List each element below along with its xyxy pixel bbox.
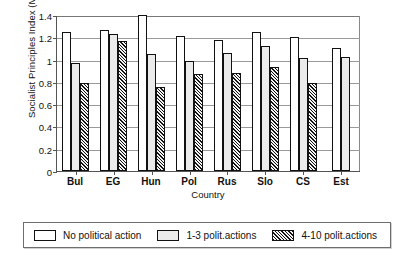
bar [147, 54, 156, 171]
legend-entry: 1-3 polit.actions [157, 230, 256, 241]
bar [223, 53, 232, 171]
legend-label: 4-10 polit.actions [301, 230, 377, 241]
x-axis-tick-label: Est [322, 176, 360, 187]
bar [80, 83, 89, 171]
bar [261, 46, 270, 171]
y-axis-tick-mark [53, 172, 57, 173]
bar [332, 48, 341, 171]
x-axis-tick-mark [303, 171, 304, 175]
y-axis-tick-label: 1.2 [39, 33, 52, 44]
bar-group [284, 16, 322, 171]
bar [156, 87, 165, 171]
legend-swatch [272, 230, 294, 241]
bar [138, 15, 147, 171]
y-axis-tick-label: 0.4 [39, 122, 52, 133]
bar [71, 63, 80, 171]
bar [290, 37, 299, 171]
x-axis-tick-label: Rus [208, 176, 246, 187]
bar [176, 36, 185, 171]
y-axis-tick-label: 1.4 [39, 11, 52, 22]
bar-group [95, 16, 133, 171]
x-axis-tick-labels: BulEGHunPolRusSloCSEst [56, 176, 360, 187]
x-axis-tick-label: CS [284, 176, 322, 187]
plot-area: 00.20.40.60.811.21.4 [56, 16, 360, 172]
y-axis-tick-label: 0.2 [39, 144, 52, 155]
y-axis-tick-label: 0.8 [39, 77, 52, 88]
x-axis-tick-mark [152, 171, 153, 175]
legend-swatch [157, 230, 179, 241]
x-axis-tick-mark [227, 171, 228, 175]
bar [232, 73, 241, 171]
bar [308, 83, 317, 171]
bar [270, 67, 279, 171]
bar-group [57, 16, 95, 171]
bar-group [133, 16, 171, 171]
legend-entry: 4-10 polit.actions [272, 230, 377, 241]
y-axis-tick-label: 1 [47, 55, 52, 66]
bar [185, 61, 194, 171]
x-axis-title: Country [56, 189, 360, 200]
chart-legend: No political action1-3 polit.actions4-10… [23, 222, 391, 248]
bar [299, 58, 308, 171]
x-axis-tick-label: Pol [170, 176, 208, 187]
bar [109, 34, 118, 171]
bar [100, 30, 109, 172]
x-axis-tick-mark [265, 171, 266, 175]
bar-series-container [57, 16, 360, 171]
bar [118, 41, 127, 171]
legend-swatch [34, 230, 56, 241]
bar [194, 74, 203, 171]
y-axis-tick-label: 0.6 [39, 100, 52, 111]
y-axis-title: Socialist Principles Index (Mean) [26, 0, 37, 133]
bar-chart-figure: Socialist Principles Index (Mean) 00.20.… [0, 0, 412, 263]
bar-group [171, 16, 209, 171]
legend-label: 1-3 polit.actions [186, 230, 256, 241]
x-axis-tick-mark [190, 171, 191, 175]
legend-label: No political action [63, 230, 141, 241]
legend-entry: No political action [34, 230, 141, 241]
x-axis-tick-mark [114, 171, 115, 175]
bar [214, 40, 223, 171]
x-axis-tick-label: Bul [56, 176, 94, 187]
bar [252, 32, 261, 171]
bar-group [209, 16, 247, 171]
bar-group [246, 16, 284, 171]
x-axis-tick-label: Slo [246, 176, 284, 187]
x-axis-tick-label: EG [94, 176, 132, 187]
bar-group [322, 16, 360, 171]
x-axis-tick-mark [76, 171, 77, 175]
bar [341, 57, 350, 171]
x-axis-tick-label: Hun [132, 176, 170, 187]
y-axis-tick-label: 0 [47, 167, 52, 178]
bar [62, 32, 71, 171]
x-axis-tick-mark [341, 171, 342, 175]
